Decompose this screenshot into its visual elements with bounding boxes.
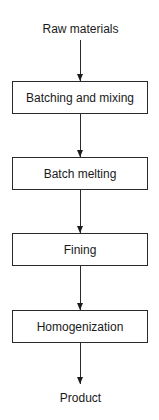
arrow-down-icon <box>80 190 81 233</box>
step-box-batch-melting: Batch melting <box>12 157 148 190</box>
step-label: Batching and mixing <box>26 91 134 105</box>
arrow-down-icon <box>80 266 81 310</box>
arrow-down-icon <box>80 114 81 157</box>
output-label: Product <box>0 391 159 405</box>
step-box-batching-and-mixing: Batching and mixing <box>12 81 148 114</box>
step-label: Homogenization <box>37 320 124 334</box>
step-label: Fining <box>64 243 97 257</box>
step-box-homogenization: Homogenization <box>12 310 148 343</box>
step-label: Batch melting <box>44 167 117 181</box>
input-label: Raw materials <box>0 22 159 36</box>
step-box-fining: Fining <box>12 233 148 266</box>
arrow-down-icon <box>80 40 81 81</box>
arrow-down-icon <box>80 343 81 384</box>
